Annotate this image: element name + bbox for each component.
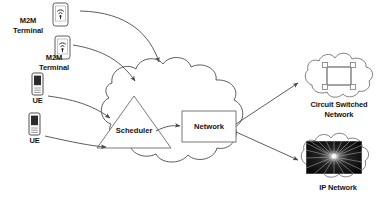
circuit-switched-label-line2: Network <box>325 110 354 119</box>
network-label: Network <box>182 122 236 131</box>
ue-1-label: UE <box>21 96 54 106</box>
ip-network-label: IP Network <box>296 183 380 193</box>
scheduler-label-text: Scheduler <box>116 126 153 135</box>
circuit-switched-label-line1: Circuit Switched <box>310 100 367 109</box>
ue-2-label-text: UE <box>29 136 39 145</box>
arrow-m2m1-to-cloud <box>80 11 159 62</box>
m2m-terminal-2-label-line1: M2M <box>46 53 62 62</box>
radial-burst-image <box>306 141 362 174</box>
ue-1-label-text: UE <box>32 96 42 105</box>
ue-2-label: UE <box>18 136 51 146</box>
ue-1-icon <box>32 73 43 95</box>
m2m-terminal-1-icon <box>53 3 68 26</box>
arrow-ue1-to-cloud <box>48 96 110 118</box>
m2m-terminal-2-label-line2: Terminal <box>39 63 69 72</box>
ip-network-cloud <box>301 133 368 177</box>
ue-2-icon <box>29 113 40 135</box>
arrow-ue2-to-cloud <box>45 136 106 147</box>
m2m-terminal-1-label-line2: Terminal <box>13 26 43 35</box>
scheduler-label: Scheduler <box>104 126 164 135</box>
ip-network-label-text: IP Network <box>319 183 357 192</box>
arrow-network-to-ip-network <box>236 132 298 160</box>
m2m-terminal-1-label: M2M Terminal <box>4 16 52 35</box>
m2m-terminal-1-label-line1: M2M <box>20 16 36 25</box>
arrow-network-to-circuit-switched <box>236 83 298 124</box>
circuit-switched-network-label: Circuit Switched Network <box>293 100 385 119</box>
circuit-switched-network-cloud <box>305 53 372 97</box>
m2m-terminal-2-label: M2M Terminal <box>30 53 78 72</box>
network-label-text: Network <box>194 122 224 131</box>
